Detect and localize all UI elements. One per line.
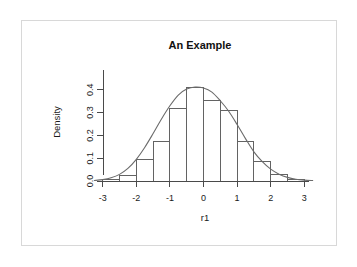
histogram-bar bbox=[120, 176, 137, 181]
y-axis-tick-labels: 0.00.10.20.30.4 bbox=[85, 84, 95, 188]
histogram-bar bbox=[153, 142, 170, 181]
x-axis-title: r1 bbox=[201, 212, 209, 223]
x-tick-label: -1 bbox=[166, 193, 174, 203]
histogram-bar bbox=[271, 174, 288, 181]
histogram-bar bbox=[204, 100, 221, 181]
histogram-bar bbox=[187, 88, 204, 181]
histogram-bars bbox=[103, 88, 305, 181]
y-axis: 0.00.10.20.30.4 Density bbox=[51, 70, 103, 187]
x-tick-label: 0 bbox=[201, 193, 206, 203]
x-tick-label: 1 bbox=[235, 193, 240, 203]
chart-title: An Example bbox=[169, 39, 232, 51]
y-tick-label: 0.0 bbox=[85, 175, 95, 188]
x-tick-label: 3 bbox=[302, 193, 307, 203]
y-tick-label: 0.3 bbox=[85, 106, 95, 119]
figure-frame: An Example 0.00.10.20.30.4 Density -3-2-… bbox=[21, 20, 337, 246]
x-tick-label: -3 bbox=[99, 193, 107, 203]
y-tick-label: 0.2 bbox=[85, 129, 95, 142]
x-axis-tick-labels: -3-2-10123 bbox=[99, 193, 307, 203]
histogram-bar bbox=[136, 160, 153, 181]
histogram-bar bbox=[170, 108, 187, 181]
x-tick-label: -2 bbox=[132, 193, 140, 203]
y-tick-label: 0.4 bbox=[85, 84, 95, 97]
x-tick-label: 2 bbox=[268, 193, 273, 203]
x-axis: -3-2-10123 r1 bbox=[99, 181, 309, 223]
histogram-plot: An Example 0.00.10.20.30.4 Density -3-2-… bbox=[22, 21, 336, 245]
y-tick-label: 0.1 bbox=[85, 152, 95, 165]
histogram-bar bbox=[254, 162, 271, 181]
y-axis-title: Density bbox=[51, 106, 62, 138]
y-axis-ticks bbox=[97, 90, 103, 181]
screenshot-canvas: An Example 0.00.10.20.30.4 Density -3-2-… bbox=[0, 0, 357, 267]
x-axis-ticks bbox=[103, 181, 305, 187]
